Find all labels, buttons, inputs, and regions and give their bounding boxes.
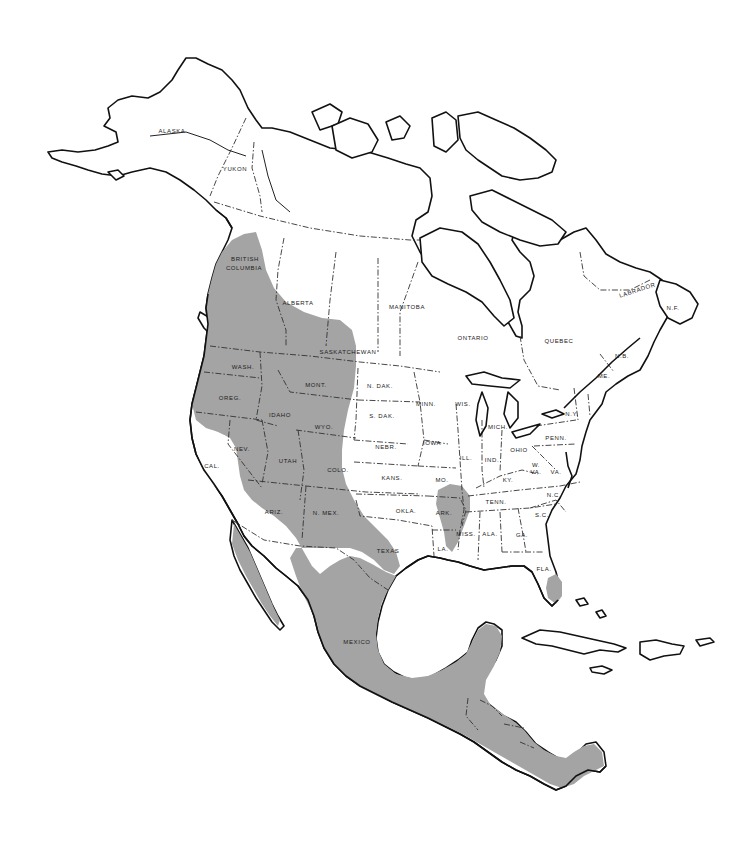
- bahamas-island: [576, 598, 588, 606]
- label-mich: MICH.: [488, 424, 508, 430]
- label-ga: GA.: [516, 532, 528, 538]
- label-nf: N.F.: [666, 305, 679, 311]
- label-ontario: ONTARIO: [457, 335, 488, 341]
- label-kans: KANS.: [381, 475, 402, 481]
- label-mont: MONT.: [305, 382, 327, 388]
- label-ala: ALA.: [482, 531, 497, 537]
- label-okla: OKLA.: [396, 508, 417, 514]
- label-w-va-1: W.: [532, 462, 540, 468]
- label-s-dak: S. DAK.: [369, 413, 395, 419]
- label-mo: MO.: [435, 477, 448, 483]
- label-texas: TEXAS: [377, 548, 400, 554]
- label-w-va-2: VA.: [530, 469, 541, 475]
- label-oreg: OREG.: [219, 395, 241, 401]
- label-ind: IND.: [485, 457, 499, 463]
- label-british-columbia-1: BRITISH: [231, 256, 259, 262]
- label-n-mex: N. MEX.: [313, 510, 340, 516]
- arctic-island-2: [332, 118, 378, 158]
- label-me: ME.: [598, 373, 610, 379]
- label-cal: CAL.: [204, 463, 220, 469]
- label-idaho: IDAHO: [269, 412, 291, 418]
- label-va: VA.: [550, 469, 561, 475]
- range-map: ALASKA YUKON BRITISH COLUMBIA ALBERTA SA…: [0, 0, 756, 848]
- label-wis: WIS.: [455, 401, 470, 407]
- label-yukon: YUKON: [223, 166, 247, 172]
- label-la: LA.: [438, 546, 449, 552]
- puerto-rico: [696, 638, 714, 646]
- label-manitoba: MANITOBA: [389, 304, 425, 310]
- label-nev: NEV.: [234, 446, 250, 452]
- ellesmere-island: [458, 112, 556, 180]
- hispaniola: [640, 640, 684, 660]
- label-ohio: OHIO: [510, 447, 528, 453]
- label-alaska: ALASKA: [159, 128, 186, 134]
- label-fla: FLA.: [536, 566, 551, 572]
- label-british-columbia-2: COLUMBIA: [226, 265, 262, 271]
- cuba: [522, 630, 626, 654]
- label-wyo: WYO.: [315, 424, 333, 430]
- bahamas-island-2: [596, 610, 606, 618]
- label-ky: KY.: [503, 477, 514, 483]
- arctic-island-3: [386, 116, 410, 140]
- label-ill: ILL.: [460, 455, 472, 461]
- label-colo: COLO.: [327, 467, 349, 473]
- label-nb: N.B.: [615, 353, 629, 359]
- label-n-dak: N. DAK.: [367, 383, 393, 389]
- label-wash: WASH.: [232, 364, 254, 370]
- label-alberta: ALBERTA: [283, 300, 314, 306]
- jamaica: [590, 666, 612, 674]
- label-nebr: NEBR.: [375, 444, 396, 450]
- label-tenn: TENN.: [486, 499, 507, 505]
- arctic-island-4: [432, 112, 458, 152]
- label-ny: N.Y.: [565, 411, 578, 417]
- label-quebec: QUEBEC: [545, 338, 574, 344]
- label-ark: ARK.: [436, 510, 452, 516]
- label-miss: MISS.: [456, 531, 475, 537]
- label-utah: UTAH: [279, 458, 297, 464]
- baffin-island: [470, 190, 566, 246]
- label-ariz: ARIZ.: [265, 509, 283, 515]
- label-iowa: IOWA: [423, 440, 441, 446]
- label-saskatchewan: SASKATCHEWAN: [320, 349, 377, 355]
- label-penn: PENN.: [545, 435, 566, 441]
- label-sc: S.C.: [535, 512, 549, 518]
- label-minn: MINN.: [416, 401, 436, 407]
- label-mexico: MEXICO: [343, 639, 370, 645]
- label-nc: N.C.: [547, 492, 561, 498]
